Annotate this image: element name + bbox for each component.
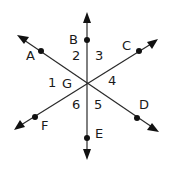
- label-G: G: [62, 76, 72, 91]
- angle-4: 4: [108, 73, 116, 88]
- angle-5: 5: [94, 97, 102, 112]
- label-B: B: [69, 32, 78, 47]
- label-F: F: [41, 118, 48, 133]
- angle-2: 2: [72, 48, 80, 63]
- point-A: [38, 48, 44, 54]
- arrowhead-up-icon: [83, 12, 91, 23]
- point-F: [32, 114, 38, 120]
- label-E: E: [95, 126, 103, 141]
- point-C: [136, 48, 142, 54]
- arrowhead-upright-icon: [147, 39, 158, 49]
- label-D: D: [139, 97, 149, 112]
- arrowhead-downleft-icon: [14, 120, 25, 130]
- point-E: [84, 135, 90, 141]
- angle-6: 6: [72, 97, 80, 112]
- intersecting-lines-diagram: B A C D E F G 1 2 3 4 5 6: [0, 0, 174, 169]
- point-B: [84, 37, 90, 43]
- arrowhead-down-icon: [83, 149, 91, 160]
- label-C: C: [122, 38, 131, 53]
- angle-1: 1: [48, 75, 56, 90]
- label-A: A: [26, 48, 35, 63]
- angle-3: 3: [95, 48, 103, 63]
- point-D: [134, 115, 140, 121]
